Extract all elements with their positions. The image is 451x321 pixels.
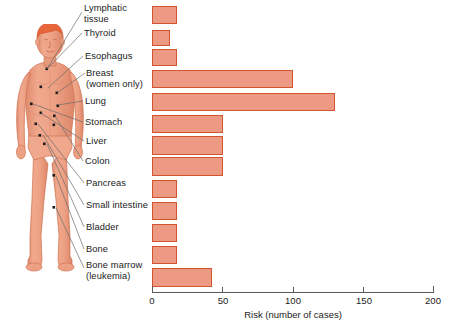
bar-lymphatic-tissue bbox=[152, 6, 177, 24]
cancer-risk-by-organ-figure: Lymphatictissue Thyroid Esophagus Breast… bbox=[0, 0, 451, 321]
axis-tick-label-50: 50 bbox=[203, 295, 243, 306]
axis-tick-label-150: 150 bbox=[344, 295, 384, 306]
bar-plot-area bbox=[0, 0, 451, 321]
bar-breast bbox=[152, 70, 293, 88]
axis-tick-0 bbox=[152, 286, 153, 293]
bar-thyroid bbox=[152, 30, 170, 46]
bar-small-intestine bbox=[152, 202, 177, 220]
bar-bone-marrow bbox=[152, 268, 212, 287]
bar-bladder bbox=[152, 224, 177, 242]
axis-baseline bbox=[152, 292, 434, 293]
axis-tick-label-0: 0 bbox=[132, 295, 172, 306]
x-axis-title: Risk (number of cases) bbox=[173, 309, 413, 320]
axis-tick-100 bbox=[293, 287, 294, 292]
bar-bone bbox=[152, 246, 177, 264]
bar-esophagus bbox=[152, 49, 177, 66]
axis-tick-label-100: 100 bbox=[273, 295, 313, 306]
bar-stomach bbox=[152, 115, 223, 133]
bar-pancreas bbox=[152, 180, 177, 198]
bar-colon bbox=[152, 157, 223, 176]
bar-lung bbox=[152, 93, 335, 111]
bar-liver bbox=[152, 136, 223, 155]
axis-tick-label-200: 200 bbox=[413, 295, 451, 306]
axis-tick-150 bbox=[363, 287, 364, 292]
axis-tick-50 bbox=[222, 287, 223, 292]
axis-tick-200 bbox=[433, 286, 434, 293]
